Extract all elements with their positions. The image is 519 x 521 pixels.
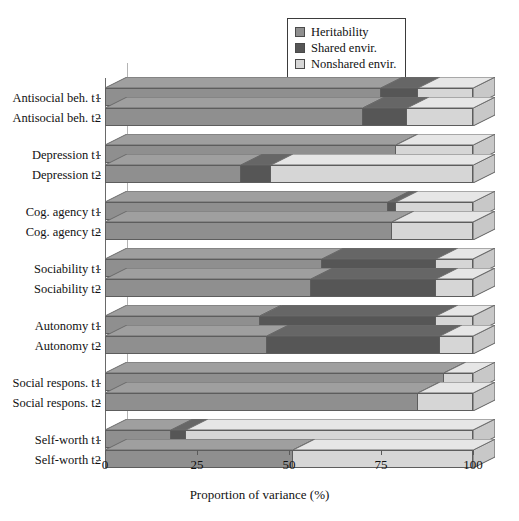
legend-swatch-heritability bbox=[295, 27, 305, 37]
bar-segment-nonshared-envir bbox=[407, 108, 473, 126]
bar-segment-shared-envir bbox=[363, 108, 407, 126]
legend-swatch-nonshared-envir bbox=[295, 59, 305, 69]
category-tick bbox=[96, 98, 101, 99]
bar-segment-heritability bbox=[105, 165, 241, 183]
bar-top-face bbox=[105, 362, 466, 373]
category-label: Social respons. t1 bbox=[12, 376, 101, 390]
category-tick bbox=[96, 155, 101, 156]
legend-label-nonshared-envir: Nonshared envir. bbox=[311, 57, 396, 71]
category-axis-labels: Antisocial beh. t1Antisocial beh. t2Depr… bbox=[0, 78, 101, 450]
bar-top-face bbox=[436, 305, 495, 316]
category-label: Social respons. t2 bbox=[12, 396, 101, 410]
category-tick bbox=[96, 118, 101, 119]
bar-top-face bbox=[267, 325, 462, 336]
bar-row bbox=[105, 165, 473, 183]
category-tick bbox=[96, 232, 101, 233]
category-label: Sociability t2 bbox=[34, 282, 101, 296]
bar-top-face bbox=[436, 248, 495, 259]
bar-segment-nonshared-envir bbox=[436, 279, 473, 297]
bar-top-face bbox=[260, 305, 459, 316]
x-tick-label: 100 bbox=[463, 457, 483, 472]
bar-top-face bbox=[418, 77, 495, 88]
bar-top-face bbox=[418, 382, 495, 393]
bar-segment-nonshared-envir bbox=[418, 393, 473, 411]
bar-top-face bbox=[392, 211, 495, 222]
bar-segment-heritability bbox=[105, 108, 363, 126]
bar-top-face bbox=[444, 362, 495, 373]
legend-label-heritability: Heritability bbox=[311, 25, 369, 39]
bar-segment-heritability bbox=[105, 393, 418, 411]
bar-top-face bbox=[407, 97, 495, 108]
category-label: Cog. agency t1 bbox=[26, 205, 101, 219]
legend-item-shared-envir: Shared envir. bbox=[295, 40, 396, 56]
category-tick bbox=[96, 269, 101, 270]
x-tick bbox=[197, 450, 198, 455]
category-label: Self-worth t2 bbox=[35, 453, 101, 467]
bar-top-face bbox=[105, 325, 289, 336]
category-tick bbox=[96, 212, 101, 213]
legend-item-heritability: Heritability bbox=[295, 24, 396, 40]
category-label: Cog. agency t2 bbox=[26, 225, 101, 239]
category-tick bbox=[96, 289, 101, 290]
bar-top-face bbox=[105, 211, 414, 222]
category-label: Sociability t1 bbox=[34, 262, 101, 276]
category-tick bbox=[96, 346, 101, 347]
plot-area: 0255075100 bbox=[105, 78, 473, 450]
x-tick-label: 0 bbox=[102, 457, 109, 472]
x-tick bbox=[381, 450, 382, 455]
bar-segment-heritability bbox=[105, 222, 392, 240]
legend-label-shared-envir: Shared envir. bbox=[311, 41, 377, 55]
bar-segment-shared-envir bbox=[267, 336, 440, 354]
bar-top-face bbox=[105, 305, 282, 316]
x-tick-label: 25 bbox=[191, 457, 204, 472]
bar-top-face bbox=[396, 191, 495, 202]
category-tick bbox=[96, 403, 101, 404]
category-tick bbox=[96, 175, 101, 176]
stacked-bar-chart: Heritability Shared envir. Nonshared env… bbox=[0, 0, 519, 521]
bar-segment-heritability bbox=[105, 336, 267, 354]
legend-swatch-shared-envir bbox=[295, 43, 305, 53]
bar-segment-shared-envir bbox=[311, 279, 436, 297]
bar-top-face bbox=[440, 325, 495, 336]
category-label: Depression t2 bbox=[32, 168, 101, 182]
bar-top-face bbox=[105, 97, 385, 108]
bar-top-face bbox=[293, 439, 495, 450]
chart-legend: Heritability Shared envir. Nonshared env… bbox=[287, 18, 406, 78]
category-tick bbox=[96, 326, 101, 327]
x-tick-label: 75 bbox=[375, 457, 388, 472]
bar-top-face bbox=[436, 268, 495, 279]
bar-top-face bbox=[105, 248, 344, 259]
bar-row bbox=[105, 108, 473, 126]
bar-segment-nonshared-envir bbox=[271, 165, 473, 183]
x-tick bbox=[105, 450, 106, 455]
category-label: Autonomy t2 bbox=[35, 339, 101, 353]
category-tick bbox=[96, 440, 101, 441]
category-tick bbox=[96, 460, 101, 461]
category-label: Antisocial beh. t1 bbox=[12, 91, 101, 105]
category-label: Self-worth t1 bbox=[35, 433, 101, 447]
bar-top-face bbox=[105, 154, 263, 165]
bar-top-face bbox=[105, 382, 440, 393]
bar-row bbox=[105, 336, 473, 354]
bar-top-face bbox=[105, 77, 403, 88]
x-tick bbox=[289, 450, 290, 455]
category-label: Depression t1 bbox=[32, 148, 101, 162]
bar-row bbox=[105, 279, 473, 297]
bar-top-face bbox=[396, 134, 495, 145]
category-label: Autonomy t1 bbox=[35, 319, 101, 333]
bar-top-face bbox=[105, 268, 333, 279]
legend-item-nonshared-envir: Nonshared envir. bbox=[295, 56, 396, 72]
bar-top-face bbox=[105, 134, 418, 145]
bar-segment-nonshared-envir bbox=[440, 336, 473, 354]
x-tick bbox=[473, 450, 474, 455]
category-label: Antisocial beh. t2 bbox=[12, 111, 101, 125]
bar-top-face bbox=[186, 419, 495, 430]
bar-segment-heritability bbox=[105, 279, 311, 297]
x-axis-title: Proportion of variance (%) bbox=[0, 487, 519, 503]
bar-top-face bbox=[271, 154, 495, 165]
bar-row bbox=[105, 393, 473, 411]
bar-top-face bbox=[105, 191, 410, 202]
bar-row bbox=[105, 222, 473, 240]
category-tick bbox=[96, 383, 101, 384]
x-tick-label: 50 bbox=[283, 457, 296, 472]
